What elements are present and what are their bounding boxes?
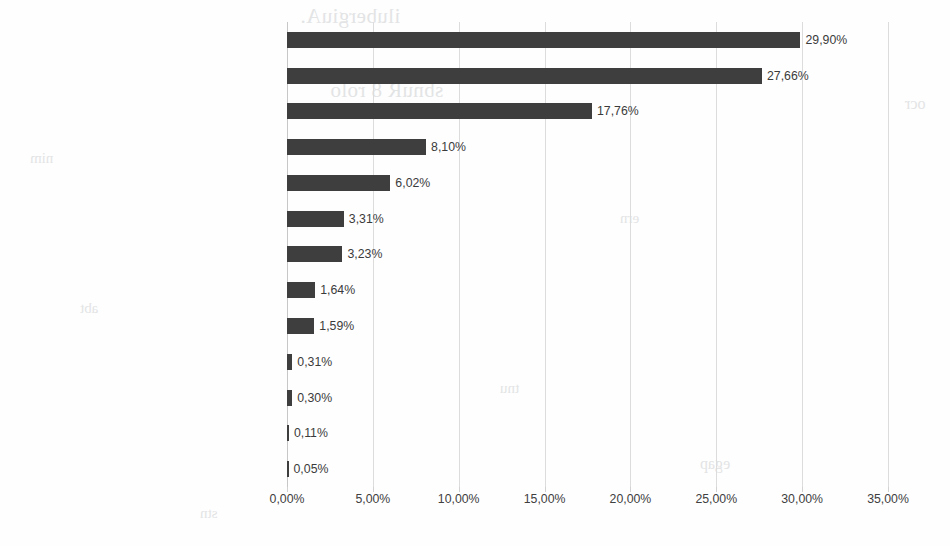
bar <box>287 103 592 119</box>
bar-with-label: 1,59% <box>287 318 354 334</box>
bar-with-label: 0,05% <box>287 461 328 477</box>
scan-bleed-artifact: stn <box>200 505 218 522</box>
bar-with-label: 6,02% <box>287 175 430 191</box>
bar-row: ECDHE-RSA-AES256-SHA3,31% <box>287 201 888 237</box>
bar-value-label: 6,02% <box>395 176 430 190</box>
scan-bleed-artifact: abt <box>80 300 98 317</box>
x-tick-label: 15,00% <box>524 492 566 506</box>
bar-row: DHE-RSA-AES128-GCM-SHA2560,31% <box>287 344 888 380</box>
bar-value-label: 0,05% <box>294 462 329 476</box>
x-tick-label: 0,00% <box>270 492 305 506</box>
bar-row: ECDHE-RSA-AES256-SHA3843,23% <box>287 237 888 273</box>
bar <box>287 282 315 298</box>
bar-with-label: 29,90% <box>287 32 847 48</box>
bar-with-label: 1,64% <box>287 282 355 298</box>
bar-value-label: 0,31% <box>297 355 332 369</box>
plot-area: ECDHE-RSA-AES128-GCM-SHA25629,90%ECDHE-R… <box>287 22 888 487</box>
bar-row: DHE-RSA-AES128-SHA1,64% <box>287 272 888 308</box>
bar-value-label: 1,59% <box>319 319 354 333</box>
bar-with-label: 0,30% <box>287 390 332 406</box>
bar <box>287 32 800 48</box>
bar-row: ECDHE-RSA-AES256-GCM-SHA38427,66% <box>287 58 888 94</box>
x-tick-label: 10,00% <box>438 492 480 506</box>
x-tick-label: 35,00% <box>867 492 909 506</box>
bar-chart: ilubergiuA. sbnuR 8 rolo nim ern abt tnu… <box>0 0 950 546</box>
gridline <box>888 22 889 487</box>
bar-row: ECDHE-RSA-AES128-GCM-SHA25629,90% <box>287 22 888 58</box>
bar-value-label: 29,90% <box>805 33 847 47</box>
bar-value-label: 3,31% <box>349 212 384 226</box>
bar-with-label: 17,76% <box>287 103 639 119</box>
bar-with-label: 3,23% <box>287 246 382 262</box>
x-tick-label: 5,00% <box>355 492 390 506</box>
bar-row: DHE-RSA-CAMELLIA256-SHA0,30% <box>287 380 888 416</box>
bar <box>287 318 314 334</box>
bar <box>287 354 292 370</box>
scan-bleed-artifact: ocr <box>905 95 925 113</box>
bar-with-label: 0,31% <box>287 354 332 370</box>
x-tick-label: 30,00% <box>781 492 823 506</box>
bar-with-label: 3,31% <box>287 211 384 227</box>
scan-bleed-artifact: nim <box>30 150 53 167</box>
bar-value-label: 0,11% <box>294 426 328 440</box>
bar-value-label: 1,64% <box>320 283 355 297</box>
bar-row: DHE-RSA-AES128-SHA2560,11% <box>287 415 888 451</box>
bar-value-label: 8,10% <box>431 140 466 154</box>
bar-with-label: 8,10% <box>287 139 466 155</box>
bar-row: ECDHE-RSA-AES128-SHA6,02% <box>287 165 888 201</box>
bar-value-label: 27,66% <box>767 69 809 83</box>
bar-with-label: 27,66% <box>287 68 809 84</box>
bar <box>287 425 289 441</box>
bar <box>287 175 390 191</box>
bar-row: DHE-RSA-AES256-SHA2560,05% <box>287 451 888 487</box>
bar <box>287 211 344 227</box>
x-tick-label: 25,00% <box>695 492 737 506</box>
bar-row: DHE-RSA-AES256-SHA17,76% <box>287 94 888 130</box>
bar-row: ECDHE-RSA-AES128-SHA2561,59% <box>287 308 888 344</box>
bar <box>287 390 292 406</box>
bar-value-label: 0,30% <box>297 391 332 405</box>
bar-value-label: 17,76% <box>597 104 639 118</box>
bar <box>287 461 289 477</box>
x-tick-label: 20,00% <box>610 492 652 506</box>
bar <box>287 68 762 84</box>
bar-row: DHE-RSA-AES256-GCM-SHA3848,10% <box>287 129 888 165</box>
bar <box>287 246 342 262</box>
bar <box>287 139 426 155</box>
bar-with-label: 0,11% <box>287 425 328 441</box>
x-axis-tick-labels: 0,00%5,00%10,00%15,00%20,00%25,00%30,00%… <box>287 492 888 514</box>
bar-value-label: 3,23% <box>347 247 382 261</box>
